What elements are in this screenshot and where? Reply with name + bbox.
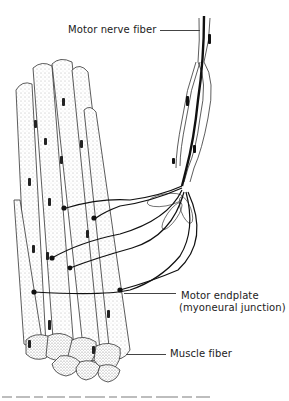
cropped-caption-remnant xyxy=(0,386,289,394)
motor-unit-illustration xyxy=(0,0,289,401)
label-myoneural-junction: (myoneural junction) xyxy=(179,302,286,313)
label-muscle-fiber: Muscle fiber xyxy=(170,348,232,359)
leader-line-motor-endplate xyxy=(124,293,176,294)
motor-endplate xyxy=(49,255,54,260)
schwann-nucleus xyxy=(208,34,211,44)
axon-branch-sheaths xyxy=(146,191,195,232)
label-motor-nerve-fiber: Motor nerve fiber xyxy=(68,24,157,35)
schwann-nucleus xyxy=(186,96,189,106)
leader-line-muscle-fiber xyxy=(126,354,166,355)
muscle-fiber-bundle xyxy=(14,59,130,382)
motor-nerve-fiber xyxy=(176,18,211,182)
label-motor-endplate: Motor endplate xyxy=(181,290,259,301)
motor-endplate xyxy=(61,205,66,210)
motor-endplate xyxy=(91,215,96,220)
schwann-nucleus xyxy=(193,145,196,153)
motor-endplate xyxy=(68,266,73,271)
leader-line-motor-nerve-fiber xyxy=(160,30,200,31)
motor-endplate xyxy=(31,289,36,294)
fiber-cross-section xyxy=(98,365,120,382)
schwann-nucleus xyxy=(172,158,175,164)
motor-endplate xyxy=(117,287,122,292)
